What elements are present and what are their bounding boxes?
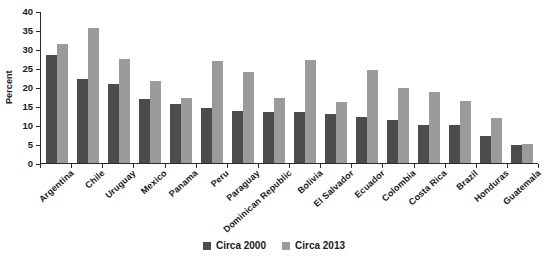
y-axis-tick: 35 <box>8 31 40 32</box>
x-axis-labels: ArgentinaChileUruguayMexicoPanamaPeruPar… <box>40 168 538 230</box>
y-axis-tick-label: 30 <box>22 44 33 55</box>
bar-circa-2013 <box>181 98 192 163</box>
bar-circa-2013 <box>243 72 254 163</box>
y-axis-tick-mark <box>36 107 40 108</box>
y-axis-tick: 0 <box>8 164 40 165</box>
y-axis-tick-mark <box>36 88 40 89</box>
bar-circa-2013 <box>367 70 378 163</box>
bar-group <box>507 12 538 163</box>
legend-swatch-icon <box>282 242 290 250</box>
y-axis-tick: 15 <box>8 107 40 108</box>
y-axis-tick-mark <box>36 69 40 70</box>
legend-swatch-icon <box>203 242 211 250</box>
y-axis-tick-label: 40 <box>22 6 33 17</box>
bar-group <box>476 12 507 163</box>
bar-circa-2000 <box>480 136 491 163</box>
bar-group <box>352 12 383 163</box>
x-axis-label-panama: Panama <box>167 168 200 199</box>
x-axis-label-brazil: Brazil <box>455 168 480 192</box>
bar-group <box>227 12 258 163</box>
y-axis-tick-mark <box>36 12 40 13</box>
bar-circa-2000 <box>356 117 367 163</box>
y-axis-tick-label: 10 <box>22 120 33 131</box>
bar-circa-2013 <box>460 101 471 163</box>
bar-group <box>103 12 134 163</box>
bar-circa-2000 <box>139 99 150 163</box>
y-axis-tick-label: 0 <box>28 158 33 169</box>
y-axis-tick-label: 15 <box>22 101 33 112</box>
bar-circa-2000 <box>294 112 305 163</box>
x-axis-label-argentina: Argentina <box>37 168 76 204</box>
bar-circa-2000 <box>46 55 57 163</box>
legend-item: Circa 2000 <box>203 240 266 251</box>
bar-circa-2000 <box>77 79 88 163</box>
bar-circa-2000 <box>449 125 460 163</box>
x-axis-label-mexico: Mexico <box>139 168 169 196</box>
bar-group <box>321 12 352 163</box>
bar-circa-2013 <box>119 59 130 163</box>
y-axis-tick-label: 25 <box>22 63 33 74</box>
y-axis-tick-mark <box>36 31 40 32</box>
bar-circa-2013 <box>212 61 223 163</box>
legend-label: Circa 2013 <box>295 240 345 251</box>
y-axis-tick: 30 <box>8 50 40 51</box>
x-axis-label-uruguay: Uruguay <box>103 168 137 200</box>
y-axis-tick-mark <box>36 126 40 127</box>
bar-group <box>72 12 103 163</box>
legend-label: Circa 2000 <box>216 240 266 251</box>
y-axis-tick-mark <box>36 145 40 146</box>
y-axis-tick: 20 <box>8 88 40 89</box>
bar-series-layer <box>41 12 538 163</box>
bar-group <box>165 12 196 163</box>
bar-circa-2000 <box>387 120 398 163</box>
y-axis-tick: 40 <box>8 12 40 13</box>
x-axis-tick-mark <box>538 164 539 168</box>
y-axis-tick-label: 20 <box>22 82 33 93</box>
bar-circa-2013 <box>522 144 533 163</box>
bar-group <box>445 12 476 163</box>
bar-circa-2000 <box>108 84 119 163</box>
bar-circa-2000 <box>325 114 336 163</box>
y-axis-tick: 5 <box>8 145 40 146</box>
y-axis-tick-label: 35 <box>22 25 33 36</box>
bar-circa-2013 <box>336 102 347 163</box>
bar-circa-2013 <box>57 44 68 163</box>
bar-group <box>134 12 165 163</box>
y-axis-tick: 10 <box>8 126 40 127</box>
bar-group <box>258 12 289 163</box>
bar-circa-2000 <box>511 145 522 163</box>
bar-group <box>196 12 227 163</box>
bar-circa-2013 <box>398 88 409 163</box>
bar-group <box>290 12 321 163</box>
bar-circa-2000 <box>263 112 274 163</box>
bar-circa-2000 <box>232 111 243 163</box>
bar-circa-2000 <box>201 108 212 163</box>
bar-circa-2013 <box>274 98 285 163</box>
y-axis-tick-mark <box>36 50 40 51</box>
bar-circa-2013 <box>305 60 316 163</box>
x-axis-label-chile: Chile <box>83 168 106 190</box>
x-axis-label-peru: Peru <box>209 168 231 189</box>
chart-legend: Circa 2000Circa 2013 <box>0 240 548 251</box>
bar-group <box>41 12 72 163</box>
bar-circa-2000 <box>170 104 181 163</box>
x-axis-label-bolivia: Bolivia <box>295 168 324 196</box>
bar-group <box>414 12 445 163</box>
bar-circa-2013 <box>150 81 161 163</box>
bar-chart: Percent 0510152025303540 ArgentinaChileU… <box>0 0 548 264</box>
legend-item: Circa 2013 <box>282 240 345 251</box>
bar-group <box>383 12 414 163</box>
bar-circa-2000 <box>418 125 429 163</box>
y-axis-tick-label: 5 <box>28 139 33 150</box>
bar-circa-2013 <box>88 28 99 163</box>
y-axis-title: Percent <box>2 52 16 122</box>
y-axis-tick: 25 <box>8 69 40 70</box>
bar-circa-2013 <box>429 92 440 163</box>
plot-area: 0510152025303540 <box>40 12 538 164</box>
bar-circa-2013 <box>491 118 502 163</box>
